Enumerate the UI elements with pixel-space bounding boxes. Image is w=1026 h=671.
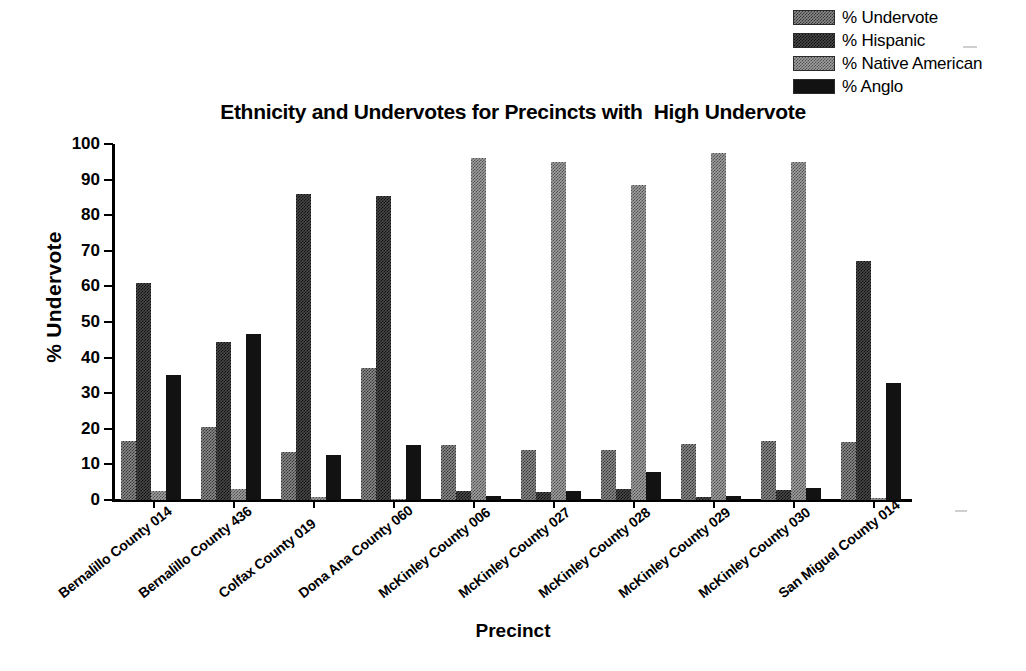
chart-legend: % Undervote% Hispanic% Native American% … (793, 6, 1023, 98)
bar-group (433, 140, 513, 500)
scan-artifact (963, 46, 977, 48)
y-axis-tick (104, 143, 113, 145)
bar (551, 162, 566, 500)
bar (791, 162, 806, 500)
bar (646, 472, 661, 500)
legend-label: % Hispanic (842, 32, 925, 49)
bar (566, 491, 581, 500)
y-axis-tick-label: 20 (52, 420, 100, 438)
bar (521, 450, 536, 500)
bar (281, 452, 296, 500)
bar (391, 499, 406, 501)
x-axis-title: Precinct (113, 620, 913, 642)
y-axis-tick-label: 10 (52, 455, 100, 473)
bar-group (833, 140, 913, 500)
y-axis-tick (104, 179, 113, 181)
bar (806, 488, 821, 500)
y-axis-tick (104, 392, 113, 394)
y-axis-tick-label-text: 10 (58, 455, 100, 472)
bar (776, 490, 791, 500)
legend-label: % Anglo (842, 78, 903, 95)
bar-group (353, 140, 433, 500)
y-axis-tick-label: 90 (52, 171, 100, 189)
bar (856, 261, 871, 500)
bar-group (193, 140, 273, 500)
bar (361, 368, 376, 500)
y-axis-tick (104, 250, 113, 252)
legend-item: % Undervote (793, 6, 1023, 29)
x-axis-tick (553, 501, 555, 508)
scan-artifact (955, 510, 967, 512)
bar-group (113, 140, 193, 500)
legend-swatch-icon (793, 56, 835, 71)
bar (601, 450, 616, 500)
y-axis-tick-label: 0 (52, 491, 100, 509)
legend-item: % Native American (793, 52, 1023, 75)
bar (216, 342, 231, 500)
y-axis-tick-label-text: 0 (58, 491, 100, 508)
y-axis-tick (104, 499, 113, 501)
x-axis-tick (313, 501, 315, 508)
x-axis-tick (153, 501, 155, 508)
legend-label: % Native American (842, 55, 982, 72)
bar (151, 491, 166, 500)
legend-swatch-icon (793, 10, 835, 25)
x-axis-tick (233, 501, 235, 508)
y-axis-tick (104, 214, 113, 216)
bar (121, 441, 136, 500)
legend-item: % Hispanic (793, 29, 1023, 52)
y-axis-tick-label: 100 (52, 135, 100, 153)
bar (681, 444, 696, 500)
legend-item: % Anglo (793, 75, 1023, 98)
y-axis-tick-label-text: 100 (58, 135, 100, 152)
bar-group (753, 140, 833, 500)
bar (841, 442, 856, 500)
bar (311, 497, 326, 500)
bar (376, 196, 391, 500)
bar (326, 455, 341, 500)
y-axis-tick (104, 428, 113, 430)
bar (536, 492, 551, 500)
x-axis-tick (793, 501, 795, 508)
legend-swatch-icon (793, 33, 835, 48)
bar-group (513, 140, 593, 500)
chart-title: Ethnicity and Undervotes for Precincts w… (0, 100, 1026, 124)
y-axis-title: % Undervote (42, 207, 66, 387)
y-axis-tick (104, 463, 113, 465)
y-axis-tick (104, 357, 113, 359)
bar (886, 383, 901, 500)
bar (201, 427, 216, 500)
bar (486, 496, 501, 500)
bar (726, 496, 741, 500)
bar (761, 441, 776, 500)
bar (471, 158, 486, 500)
bar (246, 334, 261, 500)
bar (441, 445, 456, 500)
bar (871, 498, 886, 500)
bar-group (593, 140, 673, 500)
x-axis-tick (393, 501, 395, 508)
y-axis-tick-label-text: 20 (58, 420, 100, 437)
y-axis-tick (104, 285, 113, 287)
bar (711, 153, 726, 500)
bar (406, 445, 421, 500)
x-axis-tick (633, 501, 635, 508)
y-axis-tick-label-text: 90 (58, 171, 100, 188)
bar (456, 491, 471, 500)
bar-group (673, 140, 753, 500)
legend-swatch-icon (793, 79, 835, 94)
bar (616, 489, 631, 500)
bar (696, 497, 711, 500)
bar-group (273, 140, 353, 500)
x-axis-tick (473, 501, 475, 508)
x-axis-tick (713, 501, 715, 508)
chart-canvas: % Undervote% Hispanic% Native American% … (0, 0, 1026, 671)
y-axis-tick (104, 321, 113, 323)
bar (631, 185, 646, 500)
bar (166, 375, 181, 500)
bar (136, 283, 151, 500)
x-axis-tick (873, 501, 875, 508)
bar (296, 194, 311, 500)
bar (231, 489, 246, 500)
legend-label: % Undervote (842, 9, 938, 26)
